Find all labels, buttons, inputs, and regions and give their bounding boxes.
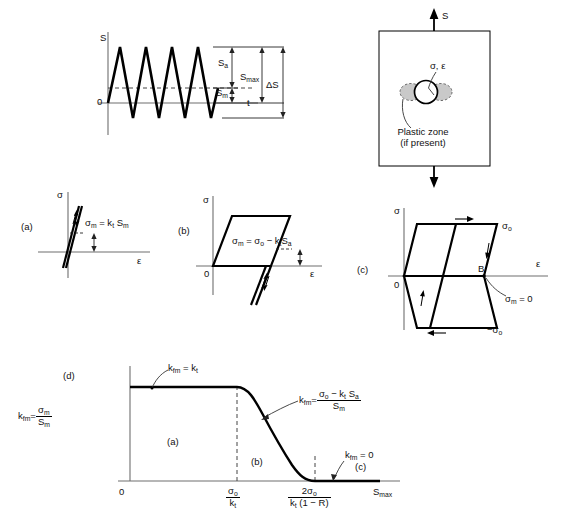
panel-d-plateau-anchor	[151, 387, 154, 390]
panel-d-zero-annotation: kfm = 0	[345, 450, 373, 461]
panel-d-xtick-1: σokt	[226, 486, 240, 509]
panel-d-id: (d)	[63, 371, 75, 381]
figure-root: S 0 t Sa Sm Smax ΔS S σ, ε P	[0, 0, 578, 521]
panel-d-region-a-label: (a)	[167, 437, 179, 447]
panel-d-xtick-2: 2σokt (1 − R)	[288, 486, 331, 509]
panel-d-region-c-label: (c)	[355, 462, 366, 472]
panel-d-plateau-leader	[152, 370, 168, 388]
panel-d-origin-label: 0	[119, 487, 124, 497]
panel-d-region-b-label: (b)	[251, 457, 263, 467]
panel-d-x-axis-label: Smax	[373, 487, 392, 498]
panel-d-chart	[0, 0, 578, 521]
panel-d-slope-annotation: kfm=σo − kt SaSm	[299, 389, 361, 412]
panel-d-plateau-annotation: kfm = kt	[168, 363, 198, 374]
panel-d-y-axis-label: kfm=σmSm	[18, 405, 52, 428]
